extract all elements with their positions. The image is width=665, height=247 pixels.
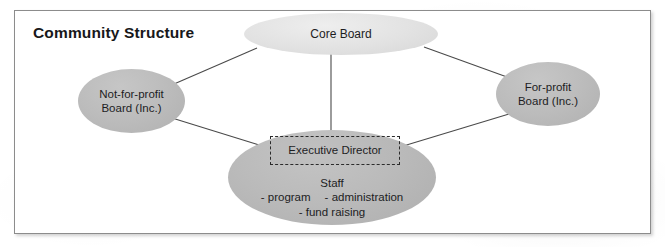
staff-item-program: - program [261, 190, 311, 205]
staff-heading: Staff [228, 176, 436, 190]
staff-group: Staff - program - administration - fund … [228, 176, 436, 219]
node-not-for-profit-board[interactable]: Not-for-profit Board (Inc.) [78, 69, 185, 133]
node-not-for-profit-board-label: Not-for-profit Board (Inc.) [99, 87, 164, 116]
diagram-page: Community Structure Core Board Not-for-p… [0, 0, 665, 247]
node-executive-director-label: Executive Director [288, 143, 381, 158]
node-core-board[interactable]: Core Board [244, 13, 438, 55]
node-executive-director-box[interactable]: Executive Director [270, 136, 400, 165]
node-for-profit-board[interactable]: For-profit Board (Inc.) [496, 62, 600, 126]
node-for-profit-board-label: For-profit Board (Inc.) [518, 80, 578, 109]
staff-item-fund-raising: - fund raising [228, 205, 436, 220]
staff-item-administration: - administration [325, 190, 404, 205]
staff-items-row: - program - administration [228, 190, 436, 205]
page-title: Community Structure [33, 24, 194, 42]
node-core-board-label: Core Board [310, 27, 371, 42]
